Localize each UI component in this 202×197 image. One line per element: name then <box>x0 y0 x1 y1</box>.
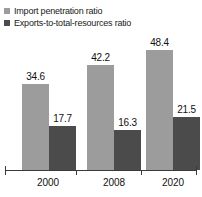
bar-value-import-penetration-ratio-2020: 48.4 <box>146 37 173 48</box>
bar-chart: Import penetration ratio Exports-to-tota… <box>0 0 202 197</box>
x-axis-label-2000: 2000 <box>18 177 78 189</box>
bar-exports-to-total-resources-ratio-2000 <box>49 126 76 170</box>
x-axis-tick-1 <box>5 171 6 175</box>
bar-value-exports-to-total-resources-ratio-2020: 21.5 <box>173 104 200 115</box>
x-axis-left-cap <box>5 166 6 170</box>
bar-value-exports-to-total-resources-ratio-2008: 16.3 <box>114 117 141 128</box>
x-axis-tick-3 <box>141 171 142 175</box>
bar-import-penetration-ratio-2000 <box>22 84 49 170</box>
x-axis-right-cap <box>196 166 197 170</box>
bar-import-penetration-ratio-2020 <box>146 50 173 170</box>
x-axis-label-2020: 2020 <box>143 177 202 189</box>
x-axis-tick-4 <box>196 171 197 175</box>
bar-value-import-penetration-ratio-2000: 34.6 <box>22 71 49 82</box>
x-axis-tick-2 <box>76 171 77 175</box>
bar-exports-to-total-resources-ratio-2008 <box>114 130 141 170</box>
bar-exports-to-total-resources-ratio-2020 <box>173 117 200 170</box>
plot-area: 34.6 17.7 42.2 16.3 48.4 21.5 2000 2008 … <box>0 0 202 197</box>
x-axis-label-2008: 2008 <box>84 177 144 189</box>
x-axis-line <box>5 170 197 171</box>
bar-value-import-penetration-ratio-2008: 42.2 <box>87 52 114 63</box>
bar-value-exports-to-total-resources-ratio-2000: 17.7 <box>49 113 76 124</box>
bar-import-penetration-ratio-2008 <box>87 65 114 170</box>
